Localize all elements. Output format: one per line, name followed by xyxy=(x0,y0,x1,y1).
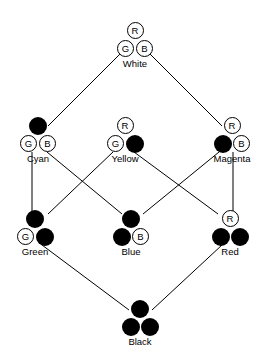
bead-yellow-g-open: G xyxy=(107,135,124,152)
node-label-yellow: Yellow xyxy=(75,153,175,164)
bead-red-g-filled: G xyxy=(212,228,230,246)
node-label-red: Red xyxy=(180,246,269,257)
bead-white-b-open: B xyxy=(136,40,153,57)
bead-blue-b-open: B xyxy=(132,228,149,245)
node-label-green: Green xyxy=(0,246,85,257)
bead-magenta-b-open: B xyxy=(233,135,250,152)
node-label-magenta: Magenta xyxy=(182,153,269,164)
bead-green-g-open: G xyxy=(17,228,34,245)
bead-black-r-filled: R xyxy=(131,300,149,318)
bead-yellow-b-filled: B xyxy=(126,135,144,153)
bead-green-b-filled: B xyxy=(36,228,54,246)
bead-yellow-r-open: R xyxy=(117,117,134,134)
node-label-blue: Blue xyxy=(81,246,181,257)
bead-cyan-b-open: B xyxy=(39,135,56,152)
bead-cyan-r-filled: R xyxy=(29,117,47,135)
color-lattice-diagram: RGBWhiteRGBCyanRGBYellowRGBMagentaRGBGre… xyxy=(0,0,269,359)
bead-black-g-filled: G xyxy=(122,318,140,336)
bead-black-b-filled: B xyxy=(141,318,159,336)
bead-white-r-open: R xyxy=(127,22,144,39)
bead-magenta-r-open: R xyxy=(224,117,241,134)
bead-green-r-filled: R xyxy=(26,210,44,228)
node-label-black: Black xyxy=(90,336,190,347)
bead-blue-g-filled: G xyxy=(113,228,131,246)
bead-red-r-open: R xyxy=(222,210,239,227)
bead-blue-r-filled: R xyxy=(122,210,140,228)
bead-white-g-open: G xyxy=(117,40,134,57)
bead-cyan-g-open: G xyxy=(20,135,37,152)
node-label-white: White xyxy=(85,58,185,69)
bead-magenta-g-filled: G xyxy=(214,135,232,153)
bead-red-b-filled: B xyxy=(231,228,249,246)
